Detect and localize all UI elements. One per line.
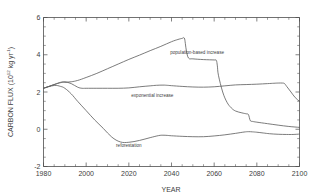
y-axis-title-mid: kg yr <box>7 53 15 71</box>
x-tick-label: 2060 <box>206 170 222 177</box>
annotation-exponential: exponential increase <box>131 93 174 98</box>
x-axis-title: YEAR <box>161 186 180 193</box>
y-tick-label: 0 <box>37 126 41 133</box>
y-tick-labels: -20246 <box>34 14 40 170</box>
y-tick-label: 2 <box>37 89 41 96</box>
x-tick-label: 2000 <box>78 170 94 177</box>
annotation-reforestation: reforestation <box>116 143 142 148</box>
y-axis-title-close: ) <box>7 47 15 49</box>
svg-text:CARBON FLUX (1012 kg yr-1): CARBON FLUX (1012 kg yr-1) <box>6 47 15 137</box>
x-tick-label: 2020 <box>121 170 137 177</box>
chart-figure: 1980200020202040206020802100 -20246 popu… <box>0 0 315 196</box>
x-tick-label: 2100 <box>292 170 308 177</box>
y-tick-label: -2 <box>34 163 40 170</box>
carbon-flux-line-chart: 1980200020202040206020802100 -20246 popu… <box>0 0 315 196</box>
x-tick-label: 1980 <box>36 170 52 177</box>
series-annotations: population-based increaseexponential inc… <box>116 50 224 148</box>
series-line-exponential-increase <box>44 82 300 102</box>
annotation-population: population-based increase <box>170 50 224 55</box>
y-tick-label: 4 <box>37 51 41 58</box>
y-tick-label: 6 <box>37 14 41 21</box>
y-axis-title-main: CARBON FLUX (10 <box>7 75 15 137</box>
x-tick-label: 2080 <box>249 170 265 177</box>
x-tick-label: 2040 <box>164 170 180 177</box>
x-tick-labels: 1980200020202040206020802100 <box>36 170 308 177</box>
y-axis-title: CARBON FLUX (1012 kg yr-1) <box>6 47 15 137</box>
